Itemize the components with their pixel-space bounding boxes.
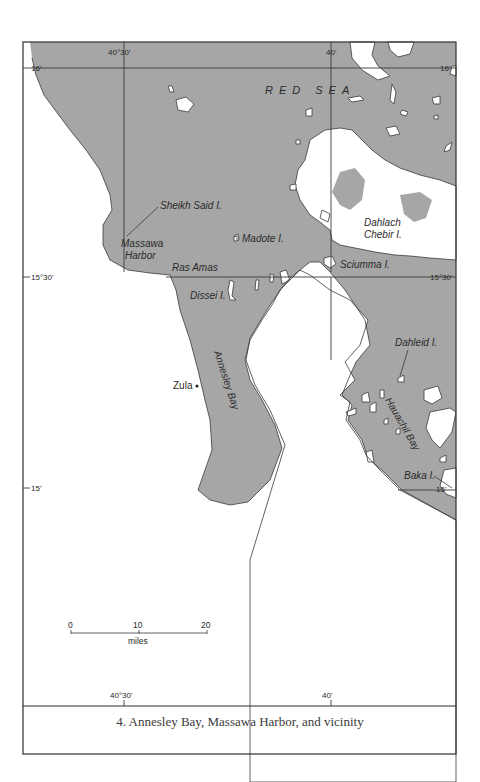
label-dahlach-2: Chebir I. bbox=[364, 229, 402, 240]
map-caption: 4. Annesley Bay, Massawa Harbor, and vic… bbox=[116, 714, 364, 729]
label-sheikh-said: Sheikh Said I. bbox=[160, 200, 222, 211]
madote-island bbox=[234, 236, 237, 241]
sea-area bbox=[30, 42, 456, 520]
lat-tick-right-1530: 15°30' bbox=[430, 273, 453, 282]
zula-town-marker bbox=[195, 384, 198, 387]
label-zula: Zula bbox=[173, 380, 193, 391]
scale-unit: miles bbox=[128, 636, 148, 646]
scale-tick-10: 10 bbox=[133, 620, 143, 630]
label-massawa-1: Massawa bbox=[121, 238, 164, 249]
lat-tick-left-16: 16' bbox=[31, 64, 42, 73]
label-ras-amas: Ras Amas bbox=[172, 262, 218, 273]
lon-tick-bottom-4030: 40°30' bbox=[110, 691, 133, 700]
lon-tick-top-4030: 40°30' bbox=[108, 48, 131, 57]
label-dahleid: Dahleid I. bbox=[395, 337, 437, 348]
lon-tick-bottom-40: 40' bbox=[322, 691, 333, 700]
lon-tick-top-40: 40' bbox=[326, 48, 337, 57]
lat-tick-right-15: 15' bbox=[436, 485, 447, 494]
label-dahlach-1: Dahlach bbox=[364, 217, 401, 228]
scale-bar: 0 10 20 miles bbox=[68, 620, 211, 646]
lat-tick-right-16: 16' bbox=[440, 64, 451, 73]
red-sea-label: RED SEA bbox=[265, 84, 355, 96]
lat-tick-left-1530: 15°30' bbox=[31, 273, 54, 282]
scale-tick-20: 20 bbox=[201, 620, 211, 630]
lat-tick-left-15: 15' bbox=[31, 484, 42, 493]
label-massawa-2: Harbor bbox=[125, 250, 156, 261]
label-dissei: Dissei I. bbox=[190, 290, 226, 301]
label-madote: Madote I. bbox=[242, 233, 284, 244]
map: 40°30' 40' 16' 15°30' 15' 16' 15°30' 15'… bbox=[0, 0, 480, 782]
label-baka: Baka I. bbox=[404, 470, 435, 481]
scale-tick-0: 0 bbox=[68, 620, 73, 630]
label-sciumma: Sciumma I. bbox=[340, 259, 390, 270]
